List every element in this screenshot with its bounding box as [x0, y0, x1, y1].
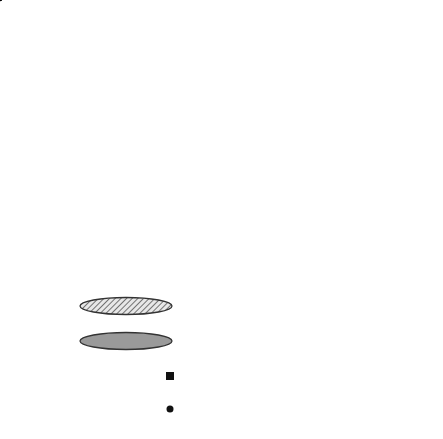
market-space-diagram	[0, 0, 443, 439]
legend-gray-ellipse-icon	[80, 333, 172, 350]
legend-dot-icon	[167, 406, 174, 413]
legend-hatched-ellipse-icon	[80, 298, 172, 315]
legend-square-icon	[166, 372, 174, 380]
legend	[80, 298, 174, 413]
